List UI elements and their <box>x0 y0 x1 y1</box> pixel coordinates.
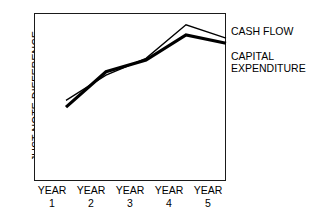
legend-label-capital-expenditure-line2: EXPENDITURE <box>231 62 319 75</box>
legend-item-cash-flow: CASH FLOW <box>231 25 319 38</box>
x-axis-tick-labels: YEAR 1 YEAR 2 YEAR 3 YEAR 4 YEAR 5 <box>34 184 226 218</box>
legend-label-cash-flow: CASH FLOW <box>231 25 293 37</box>
series-line-capital-expenditure <box>66 35 226 107</box>
legend: CASH FLOW CAPITAL EXPENDITURE <box>231 22 319 75</box>
x-tick-year-1: YEAR 1 <box>33 184 71 209</box>
line-chart: JUST NOTE DIFFERENCE YEAR 1 YEAR 2 YEAR … <box>0 0 319 219</box>
x-tick-number: 4 <box>150 197 188 210</box>
x-tick-year-5: YEAR 5 <box>189 184 227 209</box>
x-tick-number: 3 <box>111 197 149 210</box>
x-tick-year-2: YEAR 2 <box>72 184 110 209</box>
x-tick-label: YEAR <box>189 184 227 197</box>
x-tick-year-3: YEAR 3 <box>111 184 149 209</box>
x-tick-label: YEAR <box>33 184 71 197</box>
series-line-cash-flow <box>66 25 226 101</box>
legend-item-capital-expenditure: CAPITAL EXPENDITURE <box>231 50 319 75</box>
x-tick-year-4: YEAR 4 <box>150 184 188 209</box>
x-tick-label: YEAR <box>150 184 188 197</box>
x-tick-number: 5 <box>189 197 227 210</box>
x-tick-number: 1 <box>33 197 71 210</box>
x-tick-number: 2 <box>72 197 110 210</box>
x-tick-label: YEAR <box>72 184 110 197</box>
x-tick-label: YEAR <box>111 184 149 197</box>
legend-label-capital-expenditure-line1: CAPITAL <box>231 50 274 62</box>
